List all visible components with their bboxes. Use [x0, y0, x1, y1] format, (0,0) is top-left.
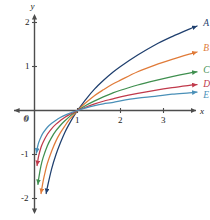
plot-canvas — [0, 0, 210, 220]
logarithmic-functions-chart: ABCDE0123210-1-2xy — [0, 0, 210, 220]
y-axis-label: y — [31, 2, 35, 11]
curve-b-lower-branch — [41, 111, 77, 194]
curve-label-d: D — [203, 80, 210, 90]
curve-label-e: E — [203, 91, 209, 101]
y-tick-label: -2 — [21, 194, 29, 203]
curve-c-lower-branch — [38, 111, 78, 185]
axis-line — [32, 14, 37, 20]
y-tick-label: 2 — [25, 18, 30, 27]
curve-label-b: B — [203, 44, 209, 54]
curve-c-upper-branch — [78, 72, 198, 111]
x-tick-label: 3 — [161, 116, 166, 125]
x-tick-label: 2 — [118, 116, 123, 125]
curves — [36, 26, 197, 193]
curve-label-c: C — [203, 66, 209, 76]
y-tick-label: -1 — [21, 150, 29, 159]
x-tick-label: 1 — [75, 116, 80, 125]
y-tick-label: 1 — [25, 62, 30, 71]
curve-label-a: A — [203, 19, 209, 29]
axes — [14, 14, 196, 214]
axis-line — [14, 108, 20, 113]
y-tick-label: 0 — [25, 114, 30, 123]
axis-line — [32, 208, 37, 214]
curve-b-upper-branch — [78, 52, 198, 111]
x-axis-label: x — [200, 107, 204, 116]
